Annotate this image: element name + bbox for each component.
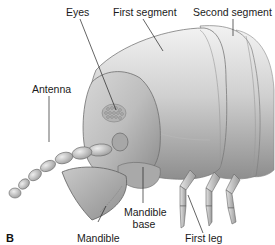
compound-eye bbox=[102, 104, 126, 122]
label-first-segment: First segment bbox=[113, 7, 177, 18]
antenna-socket bbox=[112, 133, 128, 151]
mandible bbox=[62, 167, 127, 220]
second-leg bbox=[206, 172, 220, 226]
panel-letter: B bbox=[6, 232, 14, 244]
label-mandible-base-line1: Mandible bbox=[124, 207, 164, 218]
label-mandible-base-line2: base bbox=[124, 219, 164, 230]
label-second-segment: Second segment bbox=[193, 7, 272, 18]
insect-head-diagram: Eyes First segment Second segment Antenn… bbox=[0, 0, 275, 245]
third-leg bbox=[226, 174, 240, 224]
label-antenna: Antenna bbox=[32, 84, 71, 95]
label-first-leg: First leg bbox=[185, 233, 222, 244]
label-eyes: Eyes bbox=[66, 7, 89, 18]
label-mandible: Mandible bbox=[77, 233, 120, 244]
